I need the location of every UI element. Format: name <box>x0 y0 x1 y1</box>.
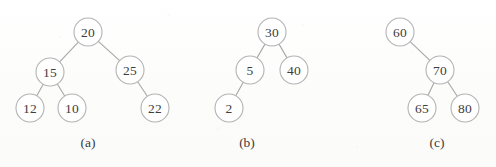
binary-tree-figure: 20152512102230540260706580 (a)(b)(c) <box>0 0 496 167</box>
node-label: 25 <box>123 63 137 78</box>
tree-node: 22 <box>141 94 169 122</box>
tree-edge <box>428 83 434 96</box>
captions-layer: (a)(b)(c) <box>81 135 445 150</box>
tree-edge <box>257 44 265 58</box>
tree-edge <box>236 82 243 96</box>
tree-node: 12 <box>16 94 44 122</box>
node-label: 12 <box>23 101 37 116</box>
tree-node: 70 <box>426 56 454 84</box>
tree-node: 2 <box>215 94 243 122</box>
tree-edge <box>410 42 430 61</box>
tree-node: 80 <box>451 94 479 122</box>
tree-node: 60 <box>386 18 414 46</box>
tree-node: 40 <box>280 56 308 84</box>
tree-node: 30 <box>258 18 286 46</box>
node-label: 22 <box>148 101 162 116</box>
node-label: 60 <box>393 25 407 40</box>
tree-edge <box>138 82 148 97</box>
tree-node: 20 <box>74 18 102 46</box>
tree-edge <box>279 44 287 58</box>
node-label: 80 <box>458 101 472 116</box>
tree-edge <box>60 42 79 62</box>
node-label: 10 <box>65 101 79 116</box>
node-label: 2 <box>226 101 233 116</box>
tree-edge <box>98 41 119 60</box>
tree-edge <box>37 84 43 96</box>
tree-node: 15 <box>36 58 64 86</box>
node-label: 40 <box>287 63 301 78</box>
tree-node: 10 <box>58 94 86 122</box>
node-label: 20 <box>81 25 95 40</box>
nodes-layer: 20152512102230540260706580 <box>16 18 479 122</box>
tree-node: 5 <box>236 56 264 84</box>
tree-caption: (c) <box>430 135 445 150</box>
node-label: 30 <box>265 25 279 40</box>
tree-node: 65 <box>408 94 436 122</box>
node-label: 65 <box>415 101 429 116</box>
tree-caption: (b) <box>239 135 255 150</box>
node-label: 15 <box>43 65 57 80</box>
tree-edge <box>448 82 458 97</box>
tree-diagram-canvas: 20152512102230540260706580 (a)(b)(c) <box>0 0 496 167</box>
node-label: 5 <box>247 63 254 78</box>
tree-edge <box>57 84 64 96</box>
tree-node: 25 <box>116 56 144 84</box>
node-label: 70 <box>433 63 447 78</box>
tree-caption: (a) <box>81 135 96 150</box>
